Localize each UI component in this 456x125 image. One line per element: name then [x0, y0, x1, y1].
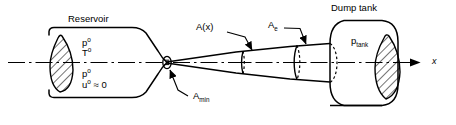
pressure-tank-label: ptank — [351, 36, 368, 46]
area-x-label: A(x) — [196, 22, 213, 32]
x-axis-label: x — [432, 57, 437, 66]
area-min-label: Amin — [193, 91, 209, 101]
reservoir-velocity-lower: uo ≈ 0 — [82, 80, 107, 90]
reservoir-label: Reservoir — [68, 14, 109, 24]
reservoir-temperature-upper: To — [82, 48, 91, 58]
dump-tank-label: Dump tank — [331, 3, 377, 13]
leader-line-area-exit — [284, 28, 306, 44]
area-exit-label: Ae — [268, 20, 278, 30]
leader-line-area-min — [170, 70, 188, 96]
leader-line-area-x — [227, 32, 252, 50]
figure-canvas: Reservoir Dump tank po To po uo ≈ 0 A(x)… — [0, 0, 456, 125]
wall-hatch-left — [50, 35, 73, 92]
wall-hatch-right — [375, 35, 400, 99]
